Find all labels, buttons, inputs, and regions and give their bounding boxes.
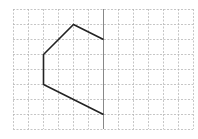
grid-diagram — [0, 0, 198, 139]
